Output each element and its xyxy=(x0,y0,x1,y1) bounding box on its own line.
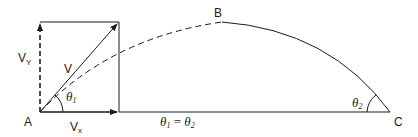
v-arrow xyxy=(40,24,117,112)
vy-label: VY xyxy=(18,51,32,67)
v-label: V xyxy=(64,62,72,76)
trajectory-descending xyxy=(222,22,390,112)
point-a-label: A xyxy=(24,115,32,129)
angle-equality-label: θ1 = θ2 xyxy=(160,114,195,130)
theta1-arc xyxy=(55,95,63,112)
vx-label: Vx xyxy=(70,120,82,135)
theta1-label: θ1 xyxy=(66,89,76,105)
theta2-label: θ2 xyxy=(352,95,362,111)
point-b-label: B xyxy=(214,6,222,20)
theta2-arc xyxy=(367,95,376,112)
point-c-label: C xyxy=(394,115,403,129)
projectile-diagram: VY V θ1 A Vx B C θ2 θ1 = θ2 xyxy=(0,0,418,137)
